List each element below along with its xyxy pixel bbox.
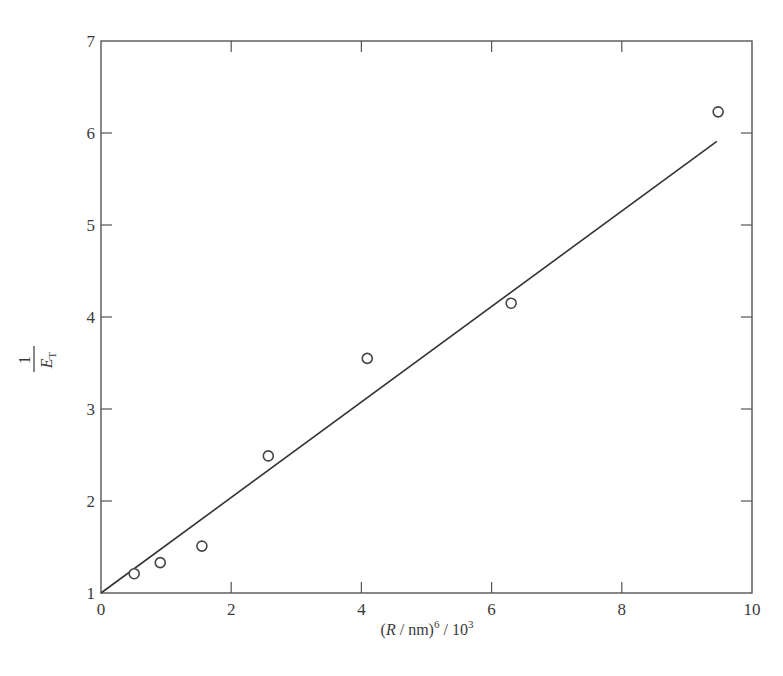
x-tick-label: 2	[227, 600, 236, 619]
x-tick-label: 0	[97, 600, 106, 619]
svg-text:1: 1	[16, 356, 33, 364]
y-tick-label: 1	[87, 584, 96, 603]
plot-border	[101, 41, 752, 593]
data-point	[129, 569, 139, 579]
y-tick-label: 6	[87, 124, 96, 143]
plot-frame	[101, 41, 752, 593]
y-tick-label: 4	[87, 308, 96, 327]
x-tick-label: 4	[357, 600, 366, 619]
y-axis-label: 1 ET	[16, 346, 58, 372]
data-point	[362, 353, 372, 363]
y-tick-label: 3	[87, 400, 96, 419]
regression-line	[101, 141, 717, 593]
data-point	[263, 451, 273, 461]
y-tick-label: 2	[87, 492, 96, 511]
y-tick-label: 7	[87, 32, 96, 51]
data-point	[506, 298, 516, 308]
data-point	[155, 558, 165, 568]
x-axis-label: (R / nm)6 / 103	[381, 618, 474, 639]
svg-text:ET: ET	[38, 351, 58, 369]
x-tick-labels: 0246810	[97, 600, 761, 619]
x-tick-label: 10	[744, 600, 761, 619]
data-point	[713, 107, 723, 117]
x-tick-label: 6	[487, 600, 496, 619]
axis-ticks	[101, 41, 752, 593]
fit-line	[101, 141, 717, 593]
y-tick-label: 5	[87, 216, 96, 235]
x-tick-label: 8	[618, 600, 627, 619]
chart-plot: 0246810 1234567 (R / nm)6 / 103 1 ET	[0, 0, 783, 676]
y-tick-labels: 1234567	[87, 32, 96, 603]
data-point	[197, 541, 207, 551]
